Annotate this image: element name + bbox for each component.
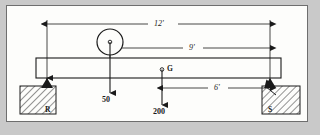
- dimension-12ft-label: 12': [154, 20, 164, 28]
- left-ground-block: [20, 86, 56, 114]
- load-50-label: 50: [102, 96, 110, 104]
- dimension-6ft-label: 6': [214, 84, 220, 92]
- beam-member: [36, 58, 281, 78]
- support-r-label: R: [45, 106, 50, 114]
- support-s-label: S: [268, 106, 272, 114]
- figure-canvas: 12' 9' 6' 50 200 G R S: [0, 0, 320, 135]
- load-200-label: 200: [153, 108, 165, 116]
- dimension-9ft-label: 9': [189, 44, 195, 52]
- point-g-label: G: [167, 65, 173, 73]
